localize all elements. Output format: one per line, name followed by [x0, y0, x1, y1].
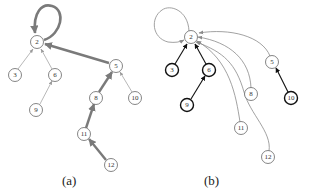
node-label: 6	[207, 66, 211, 74]
node-a-3: 3	[9, 69, 22, 82]
panel-b-edges	[154, 8, 288, 151]
node-label: 5	[270, 58, 274, 66]
node-b-9: 9	[181, 99, 194, 112]
node-b-12: 12	[262, 151, 275, 164]
node-b-8: 8	[245, 88, 258, 101]
node-b-5: 5	[266, 56, 279, 69]
node-a-12: 12	[105, 159, 118, 172]
node-label: 2	[35, 38, 39, 46]
edge-b-9-to-6	[191, 76, 205, 99]
edge-b-6-to-2	[195, 44, 206, 64]
node-label: 9	[185, 101, 189, 109]
edge-a-2-self-loop	[35, 5, 61, 40]
edge-b-3-to-2	[175, 44, 187, 64]
node-label: 10	[288, 94, 296, 102]
node-label: 3	[13, 71, 17, 79]
node-label: 8	[94, 94, 98, 102]
edge-a-10-to-5	[120, 72, 132, 92]
edge-b-2-self-loop	[154, 8, 189, 43]
node-a-2: 2	[31, 36, 44, 49]
node-label: 2	[189, 33, 193, 41]
node-label: 6	[53, 71, 57, 79]
node-b-3: 3	[166, 64, 179, 77]
edge-b-10-to-5	[276, 68, 288, 92]
edge-b-12-to-2	[196, 42, 269, 151]
node-a-5: 5	[110, 60, 123, 73]
node-label: 8	[249, 90, 253, 98]
node-label: 10	[132, 94, 140, 102]
panel-b-caption: (b)	[204, 173, 219, 189]
node-a-9: 9	[30, 104, 43, 117]
node-a-6: 6	[49, 69, 62, 82]
node-label: 12	[108, 161, 116, 169]
edge-a-5-to-2	[45, 44, 109, 63]
edge-a-3-to-2	[18, 49, 33, 69]
edge-a-9-to-6	[40, 81, 52, 104]
node-label: 3	[170, 66, 174, 74]
node-b-11: 11	[235, 122, 248, 135]
node-label: 11	[238, 124, 245, 132]
node-label: 11	[81, 130, 88, 138]
node-a-8: 8	[90, 92, 103, 105]
node-b-10: 10	[285, 92, 298, 105]
panel-a-edges	[18, 5, 132, 160]
node-b-2: 2	[185, 31, 198, 44]
node-a-10: 10	[129, 92, 142, 105]
node-label: 5	[114, 62, 118, 70]
edge-b-8-to-2	[198, 37, 251, 88]
edge-a-6-to-2	[41, 49, 52, 69]
graph-figure: 2 3 6 9 5 10 8 11 12 2 3 6 9 5 10 8 11 1…	[0, 0, 309, 196]
panel-a-nodes: 2 3 6 9 5 10 8 11 12	[9, 36, 142, 172]
edge-a-12-to-11	[89, 139, 106, 160]
node-label: 9	[34, 106, 38, 114]
panel-a-caption: (a)	[62, 173, 76, 189]
node-b-6: 6	[203, 64, 216, 77]
edge-a-8-to-5	[99, 72, 112, 92]
node-label: 12	[265, 153, 273, 161]
edge-a-11-to-8	[86, 104, 94, 128]
node-a-11: 11	[78, 128, 91, 141]
